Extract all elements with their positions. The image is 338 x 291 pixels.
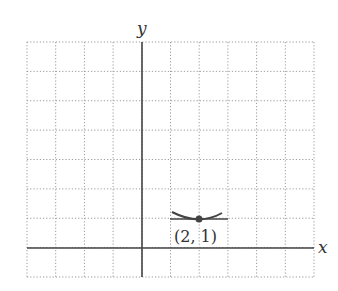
graph: x y (2, 1) xyxy=(0,0,338,291)
grid-lines xyxy=(27,42,314,277)
point-label: (2, 1) xyxy=(174,227,217,246)
y-axis-label: y xyxy=(136,18,147,38)
point-marker xyxy=(196,216,203,223)
x-axis-label: x xyxy=(318,237,328,257)
